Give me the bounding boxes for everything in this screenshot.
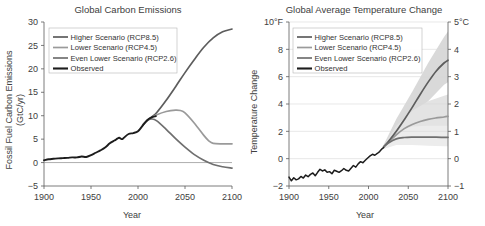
y-tick-label-c: 2: [454, 99, 459, 109]
x-tick-label: 1900: [34, 192, 54, 202]
legend: Higher Scenario (RCP8.5)Lower Scenario (…: [49, 28, 177, 73]
legend-label: Even Lower Scenario (RCP2.6): [71, 54, 177, 63]
x-tick-label: 2100: [222, 192, 242, 202]
chart-title: Global Carbon Emissions: [74, 4, 181, 15]
x-tick-label: 2000: [358, 192, 378, 202]
x-tick-label: 1900: [278, 192, 298, 202]
legend: Higher Scenario (RCP8.5)Lower Scenario (…: [293, 28, 422, 73]
series-line: [143, 110, 232, 144]
legend-label: Lower Scenario (RCP4.5): [314, 43, 401, 52]
x-axis-label: Year: [123, 210, 141, 220]
y-tick-label: −5: [28, 181, 38, 191]
y-tick-label-f: 0: [277, 154, 282, 164]
y-tick-label: 25: [28, 41, 38, 51]
y-tick-label-f: 2: [277, 127, 282, 137]
chart-title: Global Average Temperature Change: [285, 4, 442, 15]
x-tick-label: 2000: [128, 192, 148, 202]
series-line: [289, 148, 384, 181]
y-tick-label-c: 4: [454, 45, 459, 55]
legend-label: Higher Scenario (RCP8.5): [71, 33, 160, 42]
legend-label: Higher Scenario (RCP8.5): [314, 33, 403, 42]
x-tick-label: 2100: [437, 192, 457, 202]
series-line: [44, 116, 156, 160]
y-tick-label-f: 10°F: [263, 17, 283, 27]
y-tick-label-c: 5°C: [454, 17, 470, 27]
y-tick-label: 10: [28, 111, 38, 121]
y-tick-label-f: 6: [277, 72, 282, 82]
y-axis-label: Temperature Change: [249, 70, 259, 155]
y-tick-label: 30: [28, 17, 38, 27]
temperature-change-chart: Global Average Temperature Change −20246…: [243, 0, 485, 226]
x-tick-label: 1950: [318, 192, 338, 202]
x-tick-label: 1950: [81, 192, 101, 202]
legend-label: Observed: [71, 64, 104, 73]
climate-figure: Global Carbon Emissions −505101520253019…: [0, 0, 485, 226]
legend-label: Observed: [314, 64, 347, 73]
y-tick-label-f: 8: [277, 45, 282, 55]
y-tick-label: 5: [33, 134, 38, 144]
x-axis-label: Year: [355, 210, 373, 220]
legend-label: Even Lower Scenario (RCP2.6): [314, 54, 420, 63]
y-tick-label: 0: [33, 158, 38, 168]
x-tick-label: 2050: [175, 192, 195, 202]
y-axis-label-line2: (GtC/yr): [15, 94, 25, 126]
y-tick-label: 15: [28, 87, 38, 97]
carbon-emissions-chart: Global Carbon Emissions −505101520253019…: [0, 0, 243, 226]
panel-temperature-change: Global Average Temperature Change −20246…: [243, 0, 485, 226]
y-tick-label-f: 4: [277, 99, 282, 109]
y-tick-label-c: 0: [454, 154, 459, 164]
panel-carbon-emissions: Global Carbon Emissions −505101520253019…: [0, 0, 243, 226]
legend-label: Lower Scenario (RCP4.5): [71, 43, 158, 52]
y-axis-label-line1: Fossil Fuel Carbon Emissions: [4, 50, 14, 170]
x-tick-label: 2050: [398, 192, 418, 202]
y-tick-label-c: 1: [454, 127, 459, 137]
y-tick-label: 20: [28, 64, 38, 74]
y-tick-label-c: 3: [454, 72, 459, 82]
y-tick-label-c: −1: [454, 181, 464, 191]
y-tick-label-f: −2: [272, 181, 282, 191]
